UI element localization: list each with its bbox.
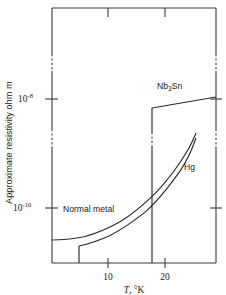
label-nb3sn: Nb3Sn (157, 81, 182, 92)
plot-frame (52, 8, 216, 263)
x-tick-label-10: 10 (103, 272, 113, 282)
y-axis-title: Approximate resistivity ohm m (4, 81, 14, 204)
x-axis-ticks (108, 8, 165, 268)
hg-curve (79, 138, 196, 263)
x-tick-label-20: 20 (160, 272, 170, 282)
y-tick-label-1e-8: 10-8 (18, 92, 34, 104)
nb3sn-curve (152, 97, 216, 263)
x-axis-title: T, °K (124, 285, 145, 295)
label-hg: Hg (184, 162, 195, 172)
resistivity-vs-temperature-chart: 10-8 10-10 10 20 Approximate resistivity… (0, 0, 226, 295)
y-tick-label-1e-10: 10-10 (13, 201, 32, 213)
series-nb3sn (152, 97, 216, 263)
figure-container: 10-8 10-10 10 20 Approximate resistivity… (0, 0, 226, 295)
normal-metal-curve (52, 133, 196, 240)
label-normal-metal: Normal metal (63, 204, 114, 214)
y-axis-ticks (45, 99, 222, 208)
